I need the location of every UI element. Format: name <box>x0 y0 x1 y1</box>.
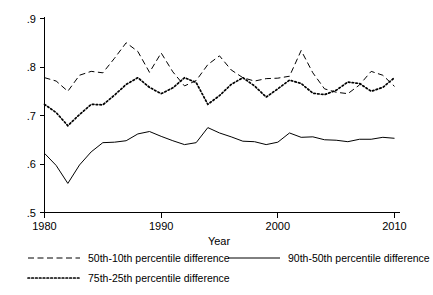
x-tick-label: 1980 <box>32 220 56 232</box>
x-axis-title: Year <box>208 235 231 247</box>
y-axis-tick-labels: .9 .8 .7 .6 .5 <box>27 13 36 219</box>
x-tick-label: 1990 <box>149 220 173 232</box>
chart-legend: 50th-10th percentile difference 90th-50t… <box>28 252 430 284</box>
y-tick-label: .5 <box>27 207 36 219</box>
series-group <box>45 43 395 184</box>
legend-item-50th-10th: 50th-10th percentile difference <box>28 252 230 264</box>
x-tick-label: 2010 <box>382 220 406 232</box>
x-axis-ticks <box>45 213 395 218</box>
series-line-90th-50th <box>45 128 395 184</box>
x-tick-label: 2000 <box>266 220 290 232</box>
line-chart: .9 .8 .7 .6 .5 1980 1990 2000 2010 Year <box>0 0 433 295</box>
legend-item-75th-25th: 75th-25th percentile difference <box>28 272 230 284</box>
y-axis-ticks <box>40 19 45 213</box>
legend-item-90th-50th: 90th-50th percentile difference <box>228 252 430 264</box>
legend-label: 75th-25th percentile difference <box>88 272 230 284</box>
legend-label: 90th-50th percentile difference <box>288 252 430 264</box>
y-tick-label: .9 <box>27 13 36 25</box>
y-tick-label: .7 <box>27 110 36 122</box>
x-axis-tick-labels: 1980 1990 2000 2010 <box>32 220 406 232</box>
y-tick-label: .8 <box>27 61 36 73</box>
chart-figure: .9 .8 .7 .6 .5 1980 1990 2000 2010 Year <box>0 0 433 295</box>
legend-label: 50th-10th percentile difference <box>88 252 230 264</box>
y-tick-label: .6 <box>27 158 36 170</box>
series-line-75th-25th <box>45 78 395 126</box>
